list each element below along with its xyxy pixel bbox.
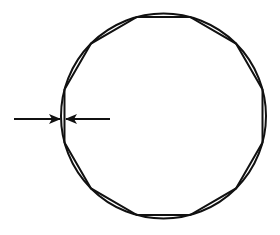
inscribed-polygon <box>64 17 262 215</box>
diagram-canvas <box>0 0 280 235</box>
